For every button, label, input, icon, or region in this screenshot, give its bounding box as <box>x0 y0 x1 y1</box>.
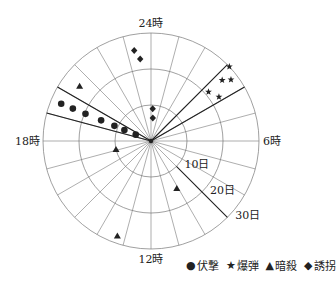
triangle-marker-icon: ▲ <box>266 260 274 271</box>
center-hub <box>149 139 153 143</box>
day-label: 10日 <box>184 158 209 171</box>
grid-spoke <box>151 47 205 141</box>
star-marker-icon: ★ <box>226 260 236 271</box>
legend-item-ambush: ● 伏撃 <box>186 257 219 273</box>
hour-label: 18時 <box>15 135 40 148</box>
grid-spoke <box>123 37 151 141</box>
star-marker <box>205 88 212 95</box>
grid-spoke <box>75 141 151 217</box>
circle-marker <box>70 105 77 112</box>
legend-item-kidnap: ◆ 誘拐 <box>304 257 335 273</box>
triangle-marker <box>76 83 83 89</box>
grid-spoke <box>151 113 255 141</box>
circle-marker <box>132 131 139 138</box>
sector-boundary <box>151 65 227 141</box>
day-label: 30日 <box>235 209 260 222</box>
grid-spoke <box>97 141 151 235</box>
day-label: 20日 <box>210 184 235 197</box>
grid-spoke <box>151 37 179 141</box>
legend-item-assassination: ▲ 暗殺 <box>266 257 297 273</box>
legend-label: 爆弾 <box>237 257 259 273</box>
grid-spoke <box>57 141 151 195</box>
legend-label: 伏撃 <box>197 257 219 273</box>
circle-marker <box>82 111 89 118</box>
triangle-marker <box>173 185 180 191</box>
diamond-marker <box>137 55 143 62</box>
grid-spoke <box>151 141 179 245</box>
diamond-marker-icon: ◆ <box>304 260 312 271</box>
star-marker <box>219 77 226 84</box>
circle-marker <box>111 123 118 130</box>
triangle-marker <box>112 146 119 152</box>
circle-marker <box>58 101 65 108</box>
hour-label: 12時 <box>139 253 164 266</box>
legend-label: 誘拐 <box>314 257 336 273</box>
legend-item-bomb: ★ 爆弾 <box>226 257 259 273</box>
hour-label: 6時 <box>263 135 281 148</box>
star-marker <box>228 76 235 83</box>
circle-marker-icon: ● <box>186 260 196 271</box>
legend-label: 暗殺 <box>275 257 297 273</box>
diamond-marker <box>149 105 155 112</box>
grid-spoke <box>47 141 151 169</box>
sector-boundary <box>151 87 245 141</box>
grid-spoke <box>75 65 151 141</box>
star-marker <box>216 93 223 100</box>
diamond-marker <box>150 115 156 122</box>
hour-label: 24時 <box>139 17 164 30</box>
triangle-marker <box>114 233 121 239</box>
circle-marker <box>98 117 105 124</box>
circle-marker <box>121 127 128 134</box>
chart-legend: ● 伏撃 ★ 爆弾 ▲ 暗殺 ◆ 誘拐 <box>186 257 336 273</box>
diamond-marker <box>131 47 137 54</box>
grid-spoke <box>123 141 151 245</box>
